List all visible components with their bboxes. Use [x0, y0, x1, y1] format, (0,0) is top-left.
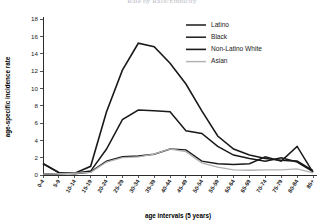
x-tick-label: 15-19 [80, 178, 93, 193]
x-tick-label: 35-39 [144, 178, 157, 193]
x-tick-label: 25-29 [112, 178, 125, 193]
y-tick-label: 8 [35, 102, 39, 109]
x-tick-label: 45-49 [176, 178, 189, 193]
legend-label-non-latino-white: Non-Latino White [211, 45, 262, 52]
y-axis-title: age-specific incidence rate [4, 56, 12, 137]
x-tick-label: 80-84 [287, 178, 300, 194]
x-tick-label: 5-9 [52, 178, 61, 188]
line-chart: 0246810121416180-45-910-1415-1920-2425-2… [0, 0, 324, 224]
x-tick-label: 55-59 [207, 178, 220, 193]
y-tick-label: 12 [31, 67, 38, 74]
y-tick-label: 2 [35, 154, 39, 161]
series-line-latino [43, 110, 313, 173]
x-tick-label: 0-4 [36, 178, 46, 189]
y-tick-label: 10 [31, 85, 38, 92]
y-tick-label: 16 [31, 33, 38, 40]
x-axis-title: age intervals (5 years) [145, 212, 211, 220]
x-tick-label: 75-79 [271, 178, 284, 193]
chart-title: Rate by Race/Ethnicity [0, 0, 324, 4]
x-tick-label: 20-24 [96, 178, 109, 194]
x-tick-label: 30-34 [128, 178, 141, 194]
y-tick-label: 0 [35, 171, 39, 178]
y-tick-label: 4 [35, 137, 39, 144]
x-tick-label: 10-14 [64, 178, 77, 194]
legend-label-asian: Asian [211, 57, 228, 64]
series-line-non-latino-white [43, 43, 313, 174]
series-line-asian [43, 149, 313, 174]
y-tick-label: 18 [31, 15, 38, 22]
x-tick-label: 40-44 [160, 178, 173, 194]
chart-figure: Rate by Race/Ethnicity 0246810121416180-… [0, 0, 324, 224]
y-tick-label: 14 [31, 50, 38, 57]
x-tick-label: 60-64 [223, 178, 236, 194]
y-tick-label: 6 [35, 119, 39, 126]
legend-label-latino: Latino [211, 21, 229, 28]
x-tick-label: 50-54 [191, 178, 204, 194]
x-tick-label: 70-74 [255, 178, 268, 194]
x-tick-label: 85+ [305, 178, 316, 190]
x-tick-label: 65-69 [239, 178, 252, 193]
legend-label-black: Black [211, 33, 228, 40]
